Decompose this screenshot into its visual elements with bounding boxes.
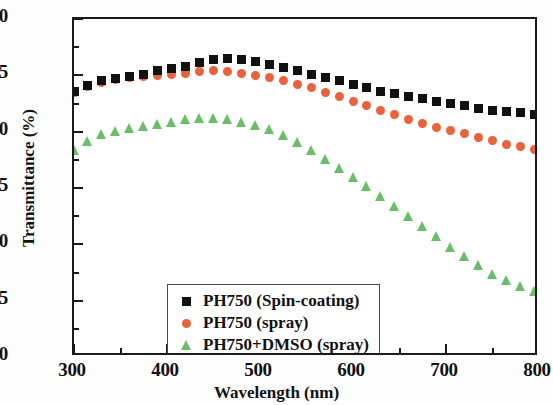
- data-point: [334, 163, 344, 173]
- data-point: [320, 154, 330, 164]
- data-point: [348, 172, 358, 182]
- data-point: [460, 129, 469, 138]
- y-axis-title: Transmittance (%): [19, 63, 39, 293]
- legend-marker-circle-icon: [175, 319, 197, 328]
- data-point: [293, 66, 302, 75]
- data-point: [293, 80, 302, 89]
- data-point: [209, 66, 218, 75]
- data-point: [432, 97, 441, 106]
- data-point: [390, 110, 399, 119]
- transmittance-spectrum-figure: Transmittance (%) Wavelength (nm) 707580…: [0, 0, 553, 405]
- data-point: [473, 260, 483, 270]
- x-tick-label: 700: [414, 359, 474, 381]
- data-point: [516, 142, 525, 151]
- data-point: [83, 81, 92, 90]
- data-point: [124, 123, 134, 133]
- y-tick-major: [74, 243, 83, 245]
- y-tick-label: 75: [0, 287, 8, 309]
- data-point: [445, 242, 455, 252]
- legend-item: PH750 (spray): [175, 312, 369, 334]
- data-point: [265, 60, 274, 69]
- data-point: [417, 221, 427, 231]
- legend-marker-triangle-icon: [175, 340, 197, 350]
- data-point: [418, 94, 427, 103]
- data-point: [180, 114, 190, 124]
- data-point: [321, 73, 330, 82]
- data-point: [307, 70, 316, 79]
- data-point: [502, 140, 511, 149]
- data-point: [278, 130, 288, 140]
- data-point: [446, 126, 455, 135]
- data-point: [501, 275, 511, 285]
- y-tick-major: [74, 300, 83, 302]
- data-point: [390, 89, 399, 98]
- y-tick-label: 95: [0, 61, 8, 83]
- data-point: [530, 145, 537, 154]
- data-point: [279, 76, 288, 85]
- x-tick-major: [445, 344, 447, 353]
- y-tick-label: 70: [0, 343, 8, 365]
- data-point: [96, 129, 106, 139]
- x-tick-label: 600: [321, 359, 381, 381]
- data-point: [516, 108, 525, 117]
- data-point: [125, 72, 134, 81]
- data-point: [195, 58, 204, 67]
- data-point: [166, 117, 176, 127]
- x-tick-label: 300: [42, 359, 102, 381]
- x-tick-major: [73, 344, 75, 353]
- data-point: [403, 211, 413, 221]
- data-point: [251, 57, 260, 66]
- y-tick-minor: [74, 272, 79, 274]
- y-tick-label: 100: [0, 5, 8, 27]
- data-point: [138, 121, 148, 131]
- y-tick-label: 85: [0, 174, 8, 196]
- data-point: [237, 69, 246, 78]
- data-point: [488, 136, 497, 145]
- legend-item-label: PH750 (spray): [203, 313, 308, 333]
- data-point: [152, 119, 162, 129]
- data-point: [82, 136, 92, 146]
- data-point: [446, 99, 455, 108]
- data-point: [292, 137, 302, 147]
- data-point: [488, 106, 497, 115]
- data-point: [236, 117, 246, 127]
- legend-item: PH750+DMSO (spray): [175, 334, 369, 355]
- data-point: [431, 231, 441, 241]
- legend-marker-square-icon: [175, 297, 197, 306]
- x-tick-minor: [492, 348, 494, 353]
- data-point: [72, 145, 79, 155]
- data-point: [223, 54, 232, 63]
- data-point: [502, 107, 511, 116]
- data-point: [529, 286, 537, 296]
- data-point: [362, 83, 371, 92]
- data-point: [376, 87, 385, 96]
- y-tick-major: [74, 131, 83, 133]
- data-point: [250, 120, 260, 130]
- data-point: [487, 269, 497, 279]
- legend-item-label: PH750+DMSO (spray): [203, 335, 369, 355]
- data-point: [194, 113, 204, 123]
- data-point: [181, 62, 190, 71]
- data-point: [418, 119, 427, 128]
- data-point: [167, 64, 176, 73]
- y-tick-label: 80: [0, 230, 8, 252]
- data-point: [279, 63, 288, 72]
- y-tick-major: [74, 187, 83, 189]
- y-tick-minor: [74, 215, 79, 217]
- legend-item-label: PH750 (Spin-coating): [203, 291, 359, 311]
- data-point: [251, 71, 260, 80]
- data-point: [459, 251, 469, 261]
- x-tick-minor: [120, 348, 122, 353]
- data-point: [307, 83, 316, 92]
- y-tick-minor: [74, 328, 79, 330]
- data-point: [208, 113, 218, 123]
- data-point: [375, 191, 385, 201]
- data-point: [72, 87, 79, 96]
- plot-area: PH750 (Spin-coating)PH750 (spray)PH750+D…: [72, 17, 537, 355]
- data-point: [432, 123, 441, 132]
- data-point: [474, 133, 483, 142]
- data-point: [223, 67, 232, 76]
- x-tick-minor: [399, 348, 401, 353]
- data-point: [237, 55, 246, 64]
- data-point: [349, 80, 358, 89]
